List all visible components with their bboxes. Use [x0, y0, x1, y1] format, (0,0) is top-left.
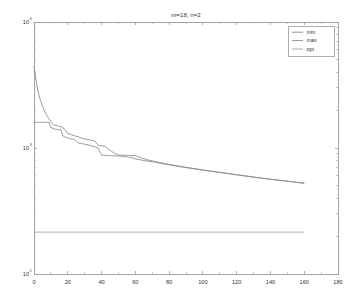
- x-tick-label: 80: [166, 279, 172, 285]
- legend-label-min: min: [307, 29, 316, 35]
- y-tick-label-base: 10: [23, 145, 29, 151]
- y-tick-label-base: 10: [23, 19, 29, 25]
- y-tick-label-exponent: 2: [29, 268, 31, 273]
- y-tick-label-exponent: 3: [29, 142, 31, 147]
- y-tick-label-exponent: 4: [29, 16, 32, 21]
- x-tick-label: 20: [65, 279, 71, 285]
- x-tick-label: 100: [198, 279, 207, 285]
- y-tick-label-base: 10: [23, 271, 29, 277]
- legend-label-max: max: [307, 37, 317, 43]
- x-tick-label: 120: [232, 279, 241, 285]
- x-tick-label: 180: [333, 279, 342, 285]
- axes-frame: [34, 22, 338, 274]
- x-tick-label: 160: [300, 279, 309, 285]
- x-tick-label: 0: [32, 279, 35, 285]
- x-tick-label: 60: [132, 279, 138, 285]
- series-line-min[interactable]: [34, 122, 304, 183]
- x-tick-label: 40: [98, 279, 104, 285]
- legend-label-opt: opt: [307, 46, 315, 52]
- chart-title: m=18, n=2: [171, 11, 201, 18]
- x-tick-label: 140: [266, 279, 275, 285]
- series-line-max[interactable]: [34, 66, 304, 183]
- figure-canvas: 020406080100120140160180102103104m=18, n…: [0, 0, 356, 300]
- chart-plot[interactable]: 020406080100120140160180102103104m=18, n…: [0, 0, 356, 300]
